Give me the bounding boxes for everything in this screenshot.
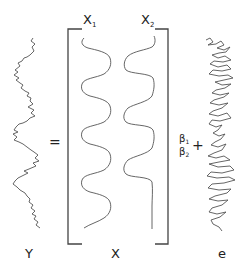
- beta2-subscript: 2: [185, 151, 189, 158]
- matrix-right-bracket: [155, 29, 168, 244]
- beta1-coefficient: β1: [179, 134, 189, 144]
- plus-sign: +: [192, 138, 204, 152]
- x1-column-label: X1: [83, 13, 96, 26]
- matrix-left-bracket: [68, 29, 82, 244]
- x2-label-subscript: 2: [150, 21, 154, 29]
- beta2-coefficient: β2: [179, 147, 189, 157]
- e-label: e: [218, 247, 226, 260]
- x1-label-name: X: [83, 12, 92, 27]
- equals-sign: =: [49, 135, 61, 149]
- x-matrix-label: X: [111, 247, 120, 260]
- y-signal-trace: [13, 38, 40, 228]
- x2-column-trace: [124, 36, 155, 229]
- beta1-subscript: 1: [185, 138, 189, 145]
- x1-column-trace: [81, 38, 110, 228]
- y-label: Y: [25, 247, 33, 260]
- x1-label-subscript: 1: [92, 21, 96, 29]
- x2-label-name: X: [141, 12, 150, 27]
- e-signal-trace: [206, 38, 235, 231]
- regression-diagram: = X1 X2 β1 β2 + Y X e: [0, 0, 247, 271]
- x2-column-label: X2: [141, 13, 154, 26]
